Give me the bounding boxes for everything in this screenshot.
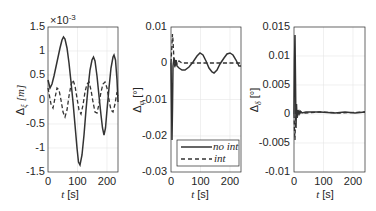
- x-axis-label: t [s]: [191, 188, 209, 200]
- svg-text:0: 0: [45, 175, 51, 187]
- svg-text:100: 100: [68, 175, 86, 187]
- svg-text:0.5: 0.5: [30, 68, 45, 80]
- svg-text:0.01: 0.01: [146, 20, 167, 32]
- y-axis-label: Δδ [°]: [248, 88, 263, 113]
- svg-text:0: 0: [168, 175, 174, 187]
- series-no-int: [171, 53, 241, 140]
- plot-delta-delta: 0.015 0.01 0.005 0 -0.005 -0.01 0 100 20…: [248, 20, 365, 200]
- svg-text:100: 100: [314, 175, 332, 187]
- plot-delta-xi: 1.5 1 0.5 0 -0.5 -1 -1.5 0 100 200 ×10-3…: [14, 13, 118, 200]
- svg-text:1: 1: [39, 44, 45, 56]
- svg-text:-0.02: -0.02: [142, 129, 167, 141]
- svg-text:1.5: 1.5: [30, 20, 45, 32]
- svg-text:200: 200: [98, 175, 116, 187]
- svg-text:-1: -1: [35, 141, 45, 153]
- legend-label-no-int: no int: [213, 140, 239, 152]
- grid: [294, 27, 365, 172]
- svg-text:0: 0: [291, 175, 297, 187]
- svg-text:-1.5: -1.5: [26, 165, 45, 177]
- exponent-label: ×10-3: [50, 13, 76, 26]
- svg-text:100: 100: [191, 175, 209, 187]
- y-tick-labels: 0.01 0 -0.01 -0.02 -0.03: [142, 20, 167, 177]
- legend-label-int: int: [214, 152, 227, 164]
- y-axis-label: Δξ [m]: [14, 85, 29, 115]
- svg-text:0: 0: [161, 56, 167, 68]
- svg-text:0: 0: [39, 93, 45, 105]
- figure: 1.5 1 0.5 0 -0.5 -1 -1.5 0 100 200 ×10-3…: [0, 0, 376, 211]
- y-tick-labels: 1.5 1 0.5 0 -0.5 -1 -1.5: [26, 20, 45, 177]
- x-axis-label: t [s]: [316, 188, 334, 200]
- plot-delta-phi: no int int 0.01 0 -0.01 -0.02 -0.03 0 10…: [131, 20, 241, 200]
- svg-text:-0.5: -0.5: [26, 117, 45, 129]
- x-tick-labels: 0 100 200: [168, 175, 239, 187]
- svg-text:200: 200: [221, 175, 239, 187]
- svg-text:0: 0: [284, 107, 290, 119]
- legend: no int int: [177, 140, 239, 166]
- x-tick-labels: 0 100 200: [291, 175, 362, 187]
- svg-text:-0.03: -0.03: [142, 165, 167, 177]
- y-tick-labels: 0.015 0.01 0.005 0 -0.005 -0.01: [259, 20, 290, 177]
- svg-text:-0.01: -0.01: [265, 165, 290, 177]
- svg-text:200: 200: [344, 175, 362, 187]
- x-axis-label: t [s]: [61, 188, 79, 200]
- axes-box: [294, 27, 365, 172]
- svg-text:-0.005: -0.005: [259, 136, 290, 148]
- svg-text:0.01: 0.01: [269, 49, 290, 61]
- svg-text:0.015: 0.015: [262, 20, 290, 32]
- svg-text:0.005: 0.005: [262, 78, 290, 90]
- x-tick-labels: 0 100 200: [45, 175, 116, 187]
